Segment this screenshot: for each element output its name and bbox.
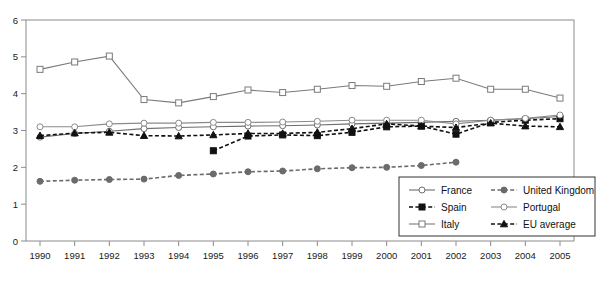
data-point-marker — [557, 95, 563, 101]
data-point-marker — [453, 159, 459, 165]
data-point-marker — [245, 119, 251, 125]
data-point-marker — [280, 119, 286, 125]
legend-item-label: Portugal — [523, 202, 560, 213]
legend-item-label: EU average — [523, 219, 576, 230]
x-axis-tick-label: 1995 — [203, 250, 224, 261]
series-portugal — [37, 112, 563, 130]
chart-canvas: 0123456199019911992199319941995199619971… — [0, 0, 614, 282]
data-point-marker — [245, 169, 251, 175]
line-chart: 0123456199019911992199319941995199619971… — [0, 0, 614, 282]
x-axis-tick-label: 2001 — [411, 250, 432, 261]
data-point-marker — [501, 204, 507, 210]
y-axis-tick-label: 5 — [13, 51, 18, 62]
x-axis-tick-label: 1997 — [272, 250, 293, 261]
y-axis-tick-label: 4 — [13, 88, 18, 99]
data-point-marker — [501, 187, 507, 193]
data-point-marker — [210, 94, 216, 100]
x-axis-tick-label: 1990 — [29, 250, 50, 261]
y-axis-tick-label: 1 — [13, 199, 18, 210]
y-axis-tick-label: 2 — [13, 162, 18, 173]
data-point-marker — [106, 53, 112, 59]
data-point-marker — [418, 162, 424, 168]
data-point-marker — [176, 172, 182, 178]
data-point-marker — [419, 187, 425, 193]
data-point-marker — [72, 59, 78, 65]
data-point-marker — [280, 90, 286, 96]
y-axis-tick-label: 0 — [13, 236, 18, 247]
data-point-marker — [141, 176, 147, 182]
data-point-marker — [349, 165, 355, 171]
data-point-marker — [106, 176, 112, 182]
data-point-marker — [176, 100, 182, 106]
data-point-marker — [210, 171, 216, 177]
data-point-marker — [419, 204, 425, 210]
series-italy — [37, 53, 563, 106]
x-axis-tick-label: 1992 — [99, 250, 120, 261]
x-axis-tick-label: 2000 — [376, 250, 397, 261]
x-axis-tick-label: 1998 — [307, 250, 328, 261]
x-axis-tick-label: 1991 — [64, 250, 85, 261]
data-point-marker — [245, 87, 251, 93]
data-point-marker — [37, 178, 43, 184]
legend: FranceUnited KingdomSpainPortugalItalyEU… — [399, 177, 595, 236]
data-point-marker — [557, 112, 563, 118]
y-axis-tick-label: 6 — [13, 15, 18, 26]
data-point-marker — [314, 118, 320, 124]
data-point-marker — [488, 86, 494, 92]
x-axis-tick-label: 2004 — [515, 250, 536, 261]
data-point-marker — [349, 117, 355, 123]
legend-item-label: Italy — [441, 219, 459, 230]
data-point-marker — [419, 221, 425, 227]
data-point-marker — [453, 131, 459, 137]
x-axis-tick-label: 1999 — [341, 250, 362, 261]
data-point-marker — [314, 129, 321, 135]
data-point-marker — [314, 166, 320, 172]
data-point-marker — [140, 132, 147, 138]
data-point-marker — [72, 177, 78, 183]
data-point-marker — [314, 86, 320, 92]
legend-item-label: France — [441, 185, 473, 196]
x-axis-tick-label: 2003 — [480, 250, 501, 261]
series-france — [37, 114, 563, 141]
x-axis-tick-label: 1994 — [168, 250, 189, 261]
data-point-marker — [141, 97, 147, 103]
x-axis-tick-label: 2005 — [549, 250, 570, 261]
legend-item-label: Spain — [441, 202, 467, 213]
data-point-marker — [418, 79, 424, 85]
data-point-marker — [522, 86, 528, 92]
legend-item-label: United Kingdom — [523, 185, 594, 196]
data-point-marker — [453, 75, 459, 81]
series-united-kingdom — [37, 159, 459, 184]
data-point-marker — [522, 115, 528, 121]
y-axis-tick-label: 3 — [13, 125, 18, 136]
data-point-marker — [141, 120, 147, 126]
data-point-marker — [210, 119, 216, 125]
data-point-marker — [349, 83, 355, 89]
data-point-marker — [280, 168, 286, 174]
data-point-marker — [210, 148, 216, 154]
data-point-marker — [37, 124, 43, 130]
x-axis-tick-label: 1993 — [133, 250, 154, 261]
x-axis-tick-label: 2002 — [445, 250, 466, 261]
series-line — [40, 56, 560, 103]
data-point-marker — [384, 83, 390, 89]
series-line — [40, 117, 560, 138]
data-point-marker — [384, 164, 390, 170]
data-point-marker — [176, 120, 182, 126]
data-point-marker — [106, 121, 112, 127]
x-axis-tick-label: 1996 — [237, 250, 258, 261]
data-point-marker — [37, 66, 43, 72]
